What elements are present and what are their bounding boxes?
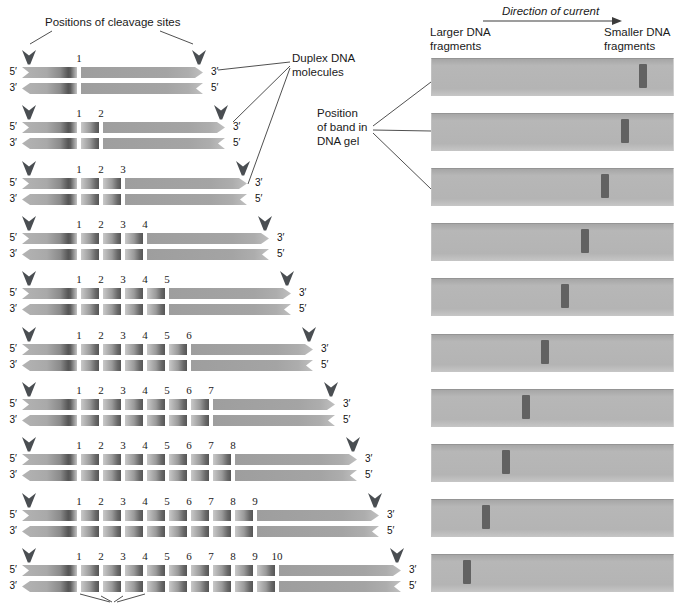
cleavage-site-number: 4 — [139, 274, 151, 285]
cleavage-site-number: 5 — [161, 496, 173, 507]
dna-fragment — [169, 526, 187, 537]
gel-band — [502, 450, 510, 474]
cleavage-site-number: 9 — [249, 496, 261, 507]
cleavage-site-number: 4 — [139, 551, 151, 562]
cleavage-site-number: 2 — [95, 108, 107, 119]
dna-fragment — [125, 360, 143, 371]
label-smaller-dna-fragments: Smaller DNA fragments — [604, 25, 670, 53]
dna-fragment — [147, 304, 165, 315]
dna-fragment — [147, 233, 269, 244]
dna-fragment — [103, 194, 121, 205]
cleavage-site-number: 1 — [73, 274, 85, 285]
cleavage-site-number: 3 — [117, 551, 129, 562]
dna-fragment — [125, 470, 143, 481]
dna-fragment — [22, 249, 77, 260]
cleavage-arrowhead-icon — [236, 161, 250, 176]
dna-fragment — [81, 122, 99, 133]
dna-fragment — [169, 304, 291, 315]
dna-fragment — [22, 526, 77, 537]
dna-fragment — [22, 470, 77, 481]
cleavage-site-number: 5 — [161, 385, 173, 396]
strand-end-label-5prime-right: 5′ — [343, 414, 358, 426]
cleavage-site-number: 2 — [95, 385, 107, 396]
strand-end-label-3prime-right: 3′ — [211, 66, 226, 78]
cleavage-arrowhead-icon — [22, 548, 36, 563]
dna-fragment — [103, 178, 121, 189]
dna-fragment — [103, 249, 121, 260]
cleavage-site-number: 5 — [161, 440, 173, 451]
cleavage-site-number: 6 — [183, 440, 195, 451]
strand-end-label-3prime-left: 3′ — [2, 359, 17, 371]
dna-fragment — [213, 526, 231, 537]
dna-fragment — [213, 510, 231, 521]
dna-fragment — [147, 399, 165, 410]
cleavage-site-number: 3 — [117, 440, 129, 451]
figure-canvas: Positions of cleavage sites Duplex DNA m… — [0, 0, 679, 606]
cleavage-arrowhead-icon — [22, 105, 36, 120]
strand-end-label-5prime-left: 5′ — [2, 287, 17, 299]
connector-line — [233, 66, 290, 122]
cleavage-site-number: 1 — [73, 551, 85, 562]
gel-band — [601, 174, 609, 198]
dna-fragment — [213, 415, 335, 426]
cleavage-site-number: 7 — [205, 496, 217, 507]
cleavage-arrowhead-icon — [390, 548, 404, 563]
dna-fragment — [125, 454, 143, 465]
cleavage-arrowhead-icon — [22, 50, 36, 65]
dna-fragment — [22, 67, 77, 78]
dna-fragment — [22, 415, 77, 426]
dna-fragment — [169, 581, 187, 592]
gel-band — [621, 119, 629, 143]
cleavage-site-number: 4 — [139, 440, 151, 451]
strand-end-label-3prime-right: 3′ — [277, 232, 292, 244]
dna-fragment — [81, 233, 99, 244]
cleavage-arrowhead-icon — [302, 327, 316, 342]
direction-of-current-arrowhead-icon — [612, 17, 622, 25]
strand-end-label-3prime-right: 3′ — [255, 177, 270, 189]
strand-end-label-5prime-right: 5′ — [299, 303, 314, 315]
gel-lane — [431, 113, 674, 151]
gel-lane — [431, 334, 674, 372]
cleavage-site-number: 7 — [205, 551, 217, 562]
connector-line — [101, 596, 112, 602]
cleavage-arrowhead-icon — [280, 271, 294, 286]
cleavage-site-number: 2 — [95, 274, 107, 285]
dna-fragment — [22, 138, 77, 149]
dna-fragment — [22, 581, 77, 592]
cleavage-arrowhead-icon — [22, 271, 36, 286]
dna-fragment — [147, 344, 165, 355]
dna-fragment — [81, 67, 203, 78]
strand-end-label-5prime-left: 5′ — [2, 453, 17, 465]
dna-fragment — [169, 415, 187, 426]
label-position-of-band-in-dna-gel: Position of band in DNA gel — [317, 106, 368, 148]
dna-fragment — [103, 470, 121, 481]
cleavage-site-number: 2 — [95, 164, 107, 175]
strand-end-label-3prime-left: 3′ — [2, 248, 17, 260]
dna-fragment — [125, 526, 143, 537]
dna-fragment — [169, 360, 187, 371]
cleavage-site-number: 3 — [117, 274, 129, 285]
dna-fragment — [22, 83, 77, 94]
strand-end-label-3prime-left: 3′ — [2, 303, 17, 315]
dna-fragment — [213, 565, 231, 576]
cleavage-site-number: 6 — [183, 385, 195, 396]
dna-fragment — [147, 581, 165, 592]
dna-fragment — [103, 288, 121, 299]
cleavage-site-number: 2 — [95, 551, 107, 562]
dna-fragment — [81, 138, 99, 149]
dna-fragment — [103, 233, 121, 244]
dna-fragment — [191, 360, 313, 371]
dna-fragment — [235, 581, 253, 592]
cleavage-site-number: 5 — [161, 330, 173, 341]
cleavage-arrowhead-icon — [346, 437, 360, 452]
strand-end-label-5prime-left: 5′ — [2, 232, 17, 244]
cleavage-site-number: 1 — [73, 330, 85, 341]
gel-lane — [431, 223, 674, 261]
cleavage-site-number: 1 — [73, 108, 85, 119]
dna-fragment — [125, 288, 143, 299]
strand-end-label-3prime-right: 3′ — [365, 453, 380, 465]
dna-fragment — [147, 288, 165, 299]
dna-fragment — [125, 581, 143, 592]
strand-end-label-3prime-left: 3′ — [2, 580, 17, 592]
dna-fragment — [22, 233, 77, 244]
